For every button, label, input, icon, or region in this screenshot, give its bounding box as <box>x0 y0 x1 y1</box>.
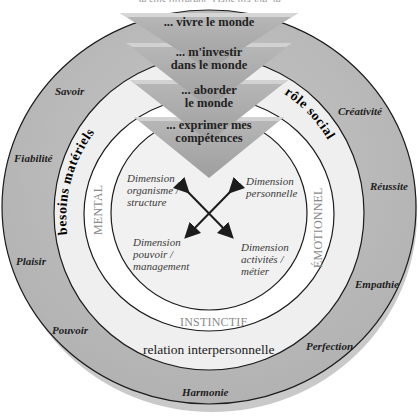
value-savoir: Savoir <box>55 85 84 97</box>
value-perfection: Perfection <box>306 340 353 352</box>
dimension-activites: Dimension activités / métier <box>241 241 289 277</box>
value-plaisir: Plaisir <box>16 255 46 267</box>
center-label-emotional: ÉMOTIONNEL <box>311 187 325 268</box>
header-title-partial: Je suis différent. Dans ma vie, je... <box>118 0 308 2</box>
dimension-personnelle: Dimension personnelle <box>246 175 297 199</box>
funnel-text-3: ... aborder le monde <box>159 84 259 110</box>
needs-values-diagram: besoins matériels rôle social MENTAL ÉMO… <box>0 0 418 416</box>
dimension-pouvoir: Dimension pouvoir / management <box>133 236 189 272</box>
value-fiabilite: Fiabilité <box>14 152 53 164</box>
dimension-organisme: Dimension organisme / structure <box>127 172 179 208</box>
need-label-relation: relation interpersonnelle <box>143 343 275 358</box>
value-reussite: Réussite <box>370 180 408 192</box>
center-label-mental: MENTAL <box>91 185 105 235</box>
funnel-text-4: ... exprimer mes compétences <box>149 119 269 145</box>
funnel-text-2: ... m'investir dans le monde <box>159 46 259 72</box>
funnel-text-1: ... vivre le monde <box>159 16 259 29</box>
center-label-instinctive: INSTINCTIF <box>180 316 247 329</box>
value-harmonie: Harmonie <box>182 386 228 398</box>
value-empathie: Empathie <box>355 278 399 290</box>
value-creativite: Créativité <box>338 105 382 117</box>
value-pouvoir: Pouvoir <box>52 324 88 336</box>
